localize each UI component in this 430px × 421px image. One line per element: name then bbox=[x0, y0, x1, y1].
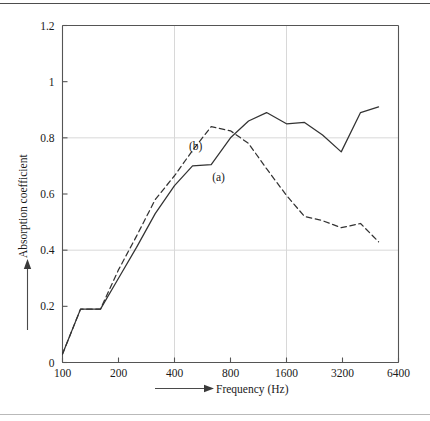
y-axis-tick-label: 0.6 bbox=[40, 188, 55, 200]
x-axis-tick-labels: 100200400800160032006400 bbox=[54, 367, 410, 379]
y-axis-tick-label: 0.2 bbox=[40, 300, 55, 312]
absorption-coefficient-chart: 00.20.40.60.811.2 1002004008001600320064… bbox=[0, 0, 430, 421]
plot-frame bbox=[63, 26, 399, 363]
y-axis-tick-label: 1.2 bbox=[40, 20, 55, 32]
x-axis-tick-label: 400 bbox=[166, 367, 184, 379]
y-axis-title-group: Absorption coefficient bbox=[17, 154, 31, 330]
series-line-a bbox=[63, 107, 379, 354]
x-axis-tick-label: 3200 bbox=[331, 367, 354, 379]
y-axis-ticks bbox=[63, 26, 68, 363]
y-axis-tick-labels: 00.20.40.60.811.2 bbox=[40, 20, 55, 369]
figure-container: 00.20.40.60.811.2 1002004008001600320064… bbox=[0, 0, 430, 421]
x-axis-arrowhead-icon bbox=[204, 385, 214, 392]
x-axis-tick-label: 100 bbox=[54, 367, 72, 379]
data-series bbox=[63, 107, 379, 354]
x-axis-ticks bbox=[63, 358, 399, 363]
series-line-b bbox=[63, 127, 379, 354]
series-annotation-label: (b) bbox=[189, 140, 203, 153]
x-axis-tick-label: 6400 bbox=[387, 367, 410, 379]
x-axis-title-group: Frequency (Hz) bbox=[155, 383, 289, 396]
series-annotations: (b)(a) bbox=[189, 140, 225, 184]
y-axis-arrowhead-icon bbox=[24, 259, 31, 269]
series-annotation-label: (a) bbox=[212, 171, 225, 184]
x-axis-tick-label: 1600 bbox=[275, 367, 298, 379]
gridlines bbox=[63, 26, 399, 363]
x-axis-title: Frequency (Hz) bbox=[216, 383, 289, 396]
y-axis-tick-label: 1 bbox=[49, 76, 55, 88]
x-axis-tick-label: 200 bbox=[110, 367, 128, 379]
y-axis-tick-label: 0.8 bbox=[40, 132, 55, 144]
y-axis-tick-label: 0.4 bbox=[40, 244, 55, 256]
x-axis-tick-label: 800 bbox=[222, 367, 240, 379]
y-axis-title: Absorption coefficient bbox=[17, 154, 30, 258]
